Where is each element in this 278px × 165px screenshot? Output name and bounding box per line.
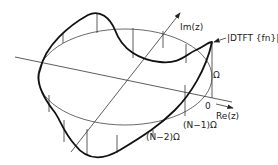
unit-circle	[38, 29, 212, 125]
dtft-diagram: Im(z) Re(z) |DTFT {fn}| Ω 0 (N−1)Ω (N−2)…	[0, 0, 278, 165]
curve-label-pointer	[214, 38, 226, 42]
stems	[49, 13, 212, 155]
dtft-magnitude-curve	[39, 13, 212, 157]
real-axis-arrow	[216, 104, 233, 108]
real-axis	[15, 57, 232, 102]
n-minus-2-label: (N−2)Ω	[146, 132, 180, 142]
curve-label: |DTFT {fn}|	[227, 33, 278, 43]
omega-label: Ω	[213, 70, 220, 80]
real-axis-label: Re(z)	[216, 111, 239, 121]
n-minus-1-label: (N−1)Ω	[183, 120, 217, 130]
zero-label: 0	[205, 101, 211, 111]
imag-axis-label: Im(z)	[180, 22, 203, 32]
